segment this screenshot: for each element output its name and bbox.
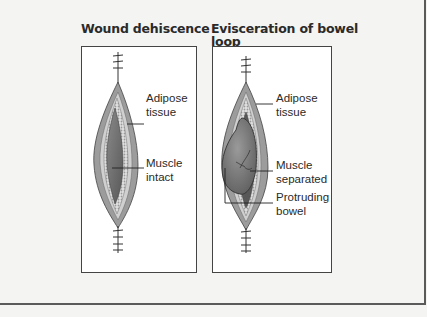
- label-adipose-tissue: Adipose tissue: [146, 91, 188, 119]
- suture-top-icon: [113, 52, 123, 86]
- label-protruding-bowel: Protruding bowel: [276, 190, 329, 218]
- label-line: Adipose: [146, 91, 188, 105]
- wound-illustrations: [0, 0, 427, 317]
- wound-dehiscence-illustration: [94, 52, 144, 253]
- label-adipose-tissue: Adipose tissue: [276, 91, 318, 119]
- label-line: tissue: [276, 105, 318, 119]
- label-line: tissue: [146, 105, 188, 119]
- evisceration-illustration: [222, 56, 273, 253]
- label-line: Muscle: [146, 156, 182, 170]
- label-line: Protruding: [276, 190, 329, 204]
- label-line: Adipose: [276, 91, 318, 105]
- label-line: Muscle: [276, 158, 327, 172]
- suture-bottom-icon: [113, 226, 123, 253]
- label-line: bowel: [276, 204, 329, 218]
- label-muscle-separated: Muscle separated: [276, 158, 327, 186]
- suture-bottom-icon: [241, 228, 251, 253]
- label-muscle-intact: Muscle intact: [146, 156, 182, 184]
- label-line: intact: [146, 170, 182, 184]
- label-line: separated: [276, 172, 327, 186]
